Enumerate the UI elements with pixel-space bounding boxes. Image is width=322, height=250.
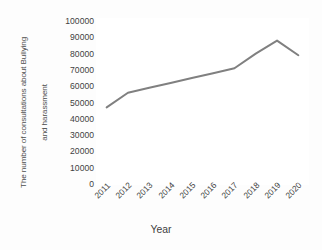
y-tick-label: 50000 xyxy=(34,98,94,107)
y-tick-label: 80000 xyxy=(34,49,94,58)
x-axis-tick-labels: 2011201220132014201520162017201820192020 xyxy=(96,186,309,218)
y-tick-label: 20000 xyxy=(34,147,94,156)
line-chart: The number of consultations about Bullyi… xyxy=(0,0,322,250)
y-tick-label: 100000 xyxy=(34,17,94,26)
y-tick-label: 40000 xyxy=(34,115,94,124)
y-axis-tick-labels: 0100002000030000400005000060000700008000… xyxy=(34,14,94,191)
series-line-svg xyxy=(96,18,309,185)
y-tick-label: 0 xyxy=(34,180,94,189)
plot-area xyxy=(96,18,309,185)
series-polyline xyxy=(107,41,299,108)
y-tick-label: 90000 xyxy=(34,33,94,42)
x-axis-title: Year xyxy=(0,224,322,235)
y-tick-label: 10000 xyxy=(34,163,94,172)
y-tick-label: 30000 xyxy=(34,131,94,140)
y-tick-label: 60000 xyxy=(34,82,94,91)
y-axis-title-line-1: The number of consultations about Bullyi… xyxy=(19,37,28,188)
y-tick-label: 70000 xyxy=(34,66,94,75)
